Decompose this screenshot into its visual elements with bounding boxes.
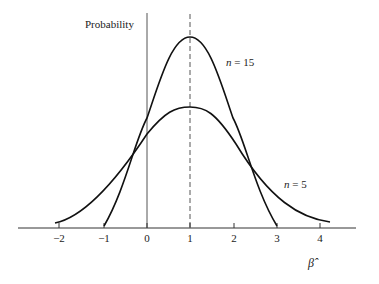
y-axis-label: Probability — [85, 18, 134, 30]
x-tick-label: 4 — [317, 232, 323, 244]
series-label-n5: n = 5 — [284, 178, 307, 190]
x-tick-label: 3 — [274, 232, 280, 244]
x-tick-label: −1 — [98, 232, 110, 244]
x-tick-label: 0 — [144, 232, 150, 244]
x-axis-label: β̂ — [308, 256, 314, 271]
x-tick-label: 2 — [231, 232, 237, 244]
curve-n5 — [55, 107, 330, 223]
x-tick-label: 1 — [187, 232, 193, 244]
x-ticks — [59, 223, 320, 228]
x-tick-label: −2 — [53, 232, 65, 244]
series-label-n15: n = 15 — [226, 56, 254, 68]
